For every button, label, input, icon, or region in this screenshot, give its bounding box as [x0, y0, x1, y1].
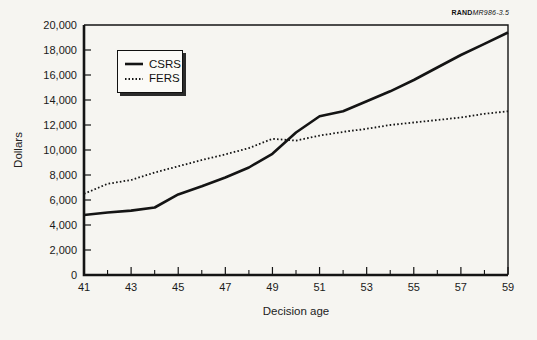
x-tick-label: 59 — [502, 281, 514, 293]
y-axis-title: Dollars — [12, 132, 24, 168]
fers-line — [84, 111, 508, 194]
legend-item-fers: FERS — [125, 73, 182, 85]
x-tick-label: 47 — [219, 281, 231, 293]
x-tick-label: 53 — [361, 281, 373, 293]
legend-label-fers: FERS — [149, 73, 180, 85]
x-tick-label: 55 — [408, 281, 420, 293]
x-tick-label: 45 — [172, 281, 184, 293]
legend-label-csrs: CSRS — [149, 59, 181, 71]
dotted-line-icon — [125, 76, 143, 82]
figure-source-label: RANDMR986-3.5 — [452, 9, 509, 16]
x-axis-title: Decision age — [263, 305, 329, 317]
legend: CSRS FERS — [117, 50, 183, 93]
y-tick-label: 10,000 — [43, 144, 77, 156]
y-tick-label: 14,000 — [43, 94, 77, 106]
y-tick-label: 8,000 — [49, 169, 77, 181]
y-tick-label: 0 — [71, 269, 77, 281]
document-id-label: MR986-3.5 — [473, 9, 509, 16]
x-tick-label: 49 — [266, 281, 278, 293]
x-tick-label: 41 — [78, 281, 90, 293]
x-tick-label: 43 — [125, 281, 137, 293]
figure-page: 02,0004,0006,0008,00010,00012,00014,0001… — [0, 0, 537, 340]
line-chart: 02,0004,0006,0008,00010,00012,00014,0001… — [0, 0, 537, 340]
y-tick-label: 16,000 — [43, 69, 77, 81]
y-tick-label: 4,000 — [49, 219, 77, 231]
y-tick-label: 2,000 — [49, 244, 77, 256]
solid-line-icon — [125, 61, 143, 67]
y-tick-label: 6,000 — [49, 194, 77, 206]
x-tick-label: 51 — [313, 281, 325, 293]
y-tick-label: 12,000 — [43, 119, 77, 131]
legend-item-csrs: CSRS — [125, 59, 182, 71]
x-tick-label: 57 — [455, 281, 467, 293]
y-tick-label: 18,000 — [43, 44, 77, 56]
y-tick-label: 20,000 — [43, 19, 77, 31]
publisher-label: RAND — [452, 9, 473, 16]
